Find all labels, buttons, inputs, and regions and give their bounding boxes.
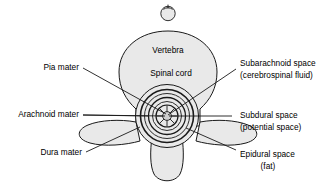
superior-spinous-process (161, 5, 175, 21)
label-epidural-space-line1: Epidural space (240, 149, 295, 159)
label-subarachnoid-space-line2: (cerebrospinal fluid) (240, 70, 313, 80)
label-arachnoid-mater: Arachnoid mater (18, 109, 79, 119)
anatomical-diagram: Vertebra Spinal cord Pia mater Arachnoid… (0, 0, 331, 187)
label-epidural-space-line2: (fat) (261, 161, 276, 171)
label-subdural-space-line1: Subdural space (240, 110, 298, 120)
label-dura-mater: Dura mater (41, 147, 83, 157)
label-spinal-cord: Spinal cord (150, 68, 192, 78)
label-pia-mater: Pia mater (43, 62, 79, 72)
label-subdural-space-line2: (potential space) (240, 122, 302, 132)
label-vertebra: Vertebra (152, 45, 184, 55)
label-subarachnoid-space-line1: Subarachnoid space (240, 58, 316, 68)
